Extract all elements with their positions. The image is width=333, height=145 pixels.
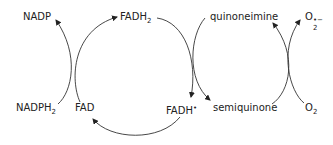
- fadh2-label: FADH: [120, 11, 147, 22]
- oxygen-label: O: [305, 102, 313, 113]
- fadh-radical-superscript: •: [193, 104, 197, 112]
- node-fad: FAD: [75, 102, 94, 114]
- arrow-o2-to-superoxide: [288, 20, 304, 103]
- node-fadh2: FADH2: [120, 11, 151, 27]
- node-superoxide: O2•−: [305, 11, 321, 23]
- fad-label: FAD: [75, 102, 94, 113]
- quinoneimine-label: quinoneimine: [210, 11, 278, 22]
- superoxide-label: O: [305, 11, 313, 22]
- node-nadph2: NADPH2: [16, 102, 56, 118]
- nadph2-subscript: 2: [52, 108, 56, 116]
- nadp-label: NADP: [23, 11, 51, 22]
- node-fadh-radical: FADH•: [166, 102, 197, 117]
- fadh2-subscript: 2: [147, 17, 151, 25]
- arrow-semiquinone-to-quinoneimine: [272, 23, 289, 104]
- node-semiquinone: semiquinone: [213, 102, 277, 114]
- fadh-radical-label: FADH: [166, 105, 193, 116]
- oxygen-subscript: 2: [313, 108, 317, 116]
- semiquinone-label: semiquinone: [213, 102, 277, 113]
- superoxide-superscript: •−: [313, 14, 323, 26]
- node-nadp: NADP: [23, 11, 51, 23]
- nadph2-label: NADPH: [16, 102, 52, 113]
- arrow-fadh-radical-to-fad: [93, 117, 180, 135]
- node-oxygen: O2: [305, 102, 317, 118]
- arrow-fadh2-to-fadh-radical: [157, 18, 193, 97]
- arrow-fad-to-fadh2: [75, 17, 117, 102]
- arrow-quinoneimine-to-semiquinone: [193, 18, 210, 100]
- arrow-nadph2-to-nadp: [56, 20, 71, 104]
- node-quinoneimine: quinoneimine: [210, 11, 278, 23]
